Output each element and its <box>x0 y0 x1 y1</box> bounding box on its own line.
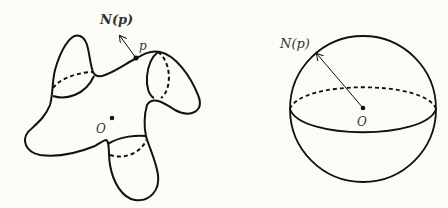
bottom-lobe-cap-dashed <box>110 140 146 157</box>
normal-label-left: N(p) <box>99 12 133 27</box>
closed-surface-figure: N(p) p O <box>25 12 200 200</box>
normal-label-right: N(p) <box>279 36 310 51</box>
right-lobe-cap-solid <box>147 52 158 98</box>
center-label-left: O <box>96 122 106 136</box>
lobe-cap-solid <box>53 76 94 97</box>
point-p-dot <box>134 56 139 61</box>
bottom-lobe-cap-solid <box>108 136 146 144</box>
sphere-figure: N(p) O <box>279 36 436 182</box>
diagram-canvas: N(p) p O N(p) O <box>0 0 448 208</box>
normal-arrow-icon <box>120 36 136 58</box>
center-o-dot <box>110 116 115 121</box>
center-o-dot <box>361 106 366 111</box>
normal-arrow-icon <box>317 54 363 108</box>
center-label-right: O <box>357 115 367 129</box>
point-label-p: p <box>139 39 147 53</box>
right-lobe-cap-dashed <box>158 52 169 98</box>
